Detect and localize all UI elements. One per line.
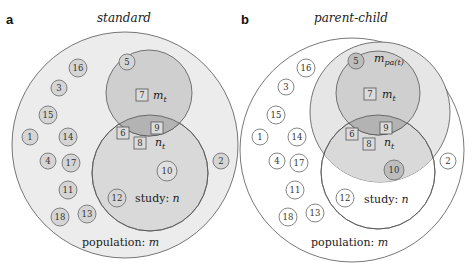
svg-text:18: 18	[283, 212, 294, 222]
svg-text:1: 1	[27, 132, 32, 142]
svg-text:8: 8	[366, 139, 371, 149]
svg-text:9: 9	[383, 123, 388, 133]
panel-b-label: b	[241, 12, 249, 27]
svg-text:14: 14	[63, 132, 74, 142]
svg-text:6: 6	[349, 129, 354, 139]
svg-text:3: 3	[283, 82, 288, 92]
svg-text:12: 12	[340, 193, 351, 203]
svg-text:18: 18	[55, 212, 66, 222]
svg-text:7: 7	[367, 89, 372, 99]
population-label: population: m	[82, 236, 159, 249]
svg-text:14: 14	[292, 132, 303, 142]
panel-a-label: a	[6, 12, 14, 27]
svg-text:16: 16	[73, 63, 84, 73]
study-label: study: n	[364, 193, 409, 206]
svg-text:12: 12	[112, 193, 123, 203]
panel-a: a standard 16 5 3 15	[6, 11, 238, 258]
svg-text:5: 5	[353, 56, 358, 66]
population-label: population: m	[311, 236, 388, 249]
svg-text:13: 13	[82, 209, 93, 219]
svg-text:13: 13	[310, 208, 321, 218]
svg-text:16: 16	[301, 63, 312, 73]
svg-text:1: 1	[257, 132, 262, 142]
svg-text:17: 17	[294, 158, 305, 168]
svg-text:10: 10	[162, 166, 173, 176]
svg-text:17: 17	[66, 158, 77, 168]
svg-text:4: 4	[274, 156, 279, 166]
panel-b: b parent-child 16 5	[240, 11, 464, 262]
panel-b-title: parent-child	[314, 11, 388, 25]
panel-a-title: standard	[97, 11, 151, 25]
svg-text:11: 11	[63, 185, 74, 195]
svg-text:15: 15	[43, 110, 54, 120]
svg-text:10: 10	[389, 165, 400, 175]
svg-text:15: 15	[271, 110, 282, 120]
svg-text:5: 5	[124, 57, 129, 67]
svg-text:7: 7	[139, 90, 144, 100]
svg-text:3: 3	[56, 83, 61, 93]
svg-text:9: 9	[154, 123, 159, 133]
study-label: study: n	[135, 192, 180, 205]
svg-text:11: 11	[290, 185, 301, 195]
svg-text:4: 4	[45, 156, 50, 166]
svg-text:2: 2	[218, 156, 223, 166]
svg-text:6: 6	[120, 128, 125, 138]
svg-text:2: 2	[445, 156, 450, 166]
svg-text:8: 8	[137, 138, 142, 148]
venn-figure: a standard 16 5 3 15	[0, 0, 474, 270]
